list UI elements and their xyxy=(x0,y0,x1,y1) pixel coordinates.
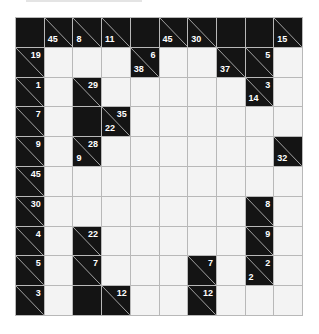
entry-cell[interactable] xyxy=(45,48,73,77)
entry-cell[interactable] xyxy=(188,107,216,136)
clue-cell: 314 xyxy=(246,78,274,107)
entry-cell[interactable] xyxy=(188,48,216,77)
entry-cell[interactable] xyxy=(131,137,159,166)
entry-cell[interactable] xyxy=(274,197,302,226)
down-clue: 22 xyxy=(105,124,115,133)
entry-cell[interactable] xyxy=(160,137,188,166)
entry-cell[interactable] xyxy=(160,48,188,77)
entry-cell[interactable] xyxy=(217,286,245,315)
clue-cell: 289 xyxy=(73,137,101,166)
entry-cell[interactable] xyxy=(217,137,245,166)
clue-cell: 12 xyxy=(102,286,130,315)
across-clue: 2 xyxy=(265,259,270,268)
across-clue: 3 xyxy=(36,289,41,298)
entry-cell[interactable] xyxy=(102,48,130,77)
entry-cell[interactable] xyxy=(246,137,274,166)
entry-cell[interactable] xyxy=(102,227,130,256)
entry-cell[interactable] xyxy=(102,167,130,196)
entry-cell[interactable] xyxy=(45,107,73,136)
entry-cell[interactable] xyxy=(131,78,159,107)
entry-cell[interactable] xyxy=(102,256,130,285)
clue-cell: 7 xyxy=(73,256,101,285)
entry-cell[interactable] xyxy=(131,286,159,315)
entry-cell[interactable] xyxy=(188,167,216,196)
entry-cell[interactable] xyxy=(217,167,245,196)
clue-cell: 30 xyxy=(188,18,216,47)
down-clue: 30 xyxy=(191,35,201,44)
clue-cell: 29 xyxy=(73,78,101,107)
entry-cell[interactable] xyxy=(160,256,188,285)
entry-cell[interactable] xyxy=(45,256,73,285)
clue-cell: 12 xyxy=(188,286,216,315)
clue-cell: 45 xyxy=(160,18,188,47)
entry-cell[interactable] xyxy=(274,48,302,77)
entry-cell[interactable] xyxy=(45,167,73,196)
entry-cell[interactable] xyxy=(188,227,216,256)
clue-cell: 9 xyxy=(16,137,44,166)
entry-cell[interactable] xyxy=(217,197,245,226)
entry-cell[interactable] xyxy=(217,78,245,107)
entry-cell[interactable] xyxy=(274,256,302,285)
down-clue: 32 xyxy=(277,154,287,163)
entry-cell[interactable] xyxy=(73,167,101,196)
entry-cell[interactable] xyxy=(217,107,245,136)
top-bar xyxy=(26,0,142,2)
entry-cell[interactable] xyxy=(131,107,159,136)
clue-cell: 5 xyxy=(16,256,44,285)
across-clue: 28 xyxy=(88,140,98,149)
entry-cell[interactable] xyxy=(73,48,101,77)
across-clue: 8 xyxy=(265,200,270,209)
entry-cell[interactable] xyxy=(188,137,216,166)
across-clue: 3 xyxy=(265,81,270,90)
clue-cell: 11 xyxy=(102,18,130,47)
entry-cell[interactable] xyxy=(73,197,101,226)
blocked-cell xyxy=(16,18,44,47)
blocked-cell xyxy=(217,18,245,47)
entry-cell[interactable] xyxy=(274,227,302,256)
entry-cell[interactable] xyxy=(274,167,302,196)
entry-cell[interactable] xyxy=(188,197,216,226)
entry-cell[interactable] xyxy=(160,286,188,315)
entry-cell[interactable] xyxy=(246,167,274,196)
entry-cell[interactable] xyxy=(131,197,159,226)
across-clue: 45 xyxy=(31,170,41,179)
entry-cell[interactable] xyxy=(45,286,73,315)
entry-cell[interactable] xyxy=(160,107,188,136)
down-clue: 8 xyxy=(76,35,81,44)
entry-cell[interactable] xyxy=(45,197,73,226)
entry-cell[interactable] xyxy=(45,137,73,166)
entry-cell[interactable] xyxy=(274,78,302,107)
down-clue: 15 xyxy=(277,35,287,44)
entry-cell[interactable] xyxy=(131,227,159,256)
entry-cell[interactable] xyxy=(102,197,130,226)
entry-cell[interactable] xyxy=(188,78,216,107)
entry-cell[interactable] xyxy=(45,227,73,256)
entry-cell[interactable] xyxy=(217,227,245,256)
entry-cell[interactable] xyxy=(160,78,188,107)
entry-cell[interactable] xyxy=(102,78,130,107)
entry-cell[interactable] xyxy=(45,78,73,107)
blocked-cell xyxy=(73,107,101,136)
across-clue: 19 xyxy=(31,51,41,60)
entry-cell[interactable] xyxy=(160,227,188,256)
blocked-cell xyxy=(73,286,101,315)
entry-cell[interactable] xyxy=(274,286,302,315)
down-clue: 37 xyxy=(220,65,230,74)
across-clue: 12 xyxy=(203,289,213,298)
clue-cell: 19 xyxy=(16,48,44,77)
entry-cell[interactable] xyxy=(246,107,274,136)
across-clue: 7 xyxy=(208,259,213,268)
across-clue: 22 xyxy=(88,230,98,239)
entry-cell[interactable] xyxy=(160,197,188,226)
entry-cell[interactable] xyxy=(131,167,159,196)
entry-cell[interactable] xyxy=(217,256,245,285)
entry-cell[interactable] xyxy=(102,137,130,166)
clue-cell: 45 xyxy=(16,167,44,196)
clue-cell: 7 xyxy=(188,256,216,285)
clue-cell: 3522 xyxy=(102,107,130,136)
blocked-cell xyxy=(246,18,274,47)
entry-cell[interactable] xyxy=(160,167,188,196)
entry-cell[interactable] xyxy=(274,107,302,136)
entry-cell[interactable] xyxy=(131,256,159,285)
entry-cell[interactable] xyxy=(246,286,274,315)
